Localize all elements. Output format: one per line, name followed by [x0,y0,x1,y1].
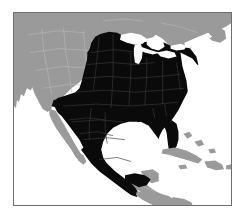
north-america-range-map [14,13,231,205]
distribution-map-figure: Shaded range map of North America. The e… [0,0,245,222]
map-frame [13,12,232,206]
